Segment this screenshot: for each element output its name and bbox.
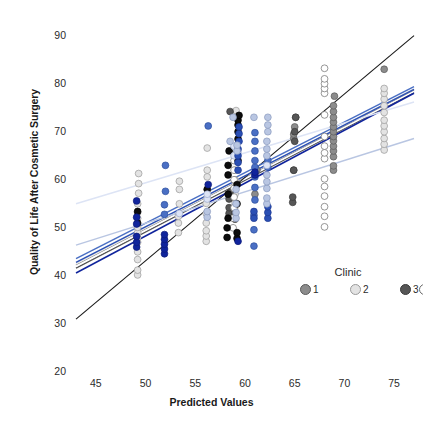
data-point	[227, 189, 234, 196]
data-point	[134, 224, 141, 231]
data-point	[330, 162, 337, 169]
data-point	[251, 208, 258, 215]
data-point	[263, 172, 270, 179]
regression-line-2	[76, 89, 414, 263]
x-tick-label: 75	[379, 377, 409, 389]
data-point	[263, 185, 270, 192]
data-point	[235, 159, 242, 166]
data-point	[263, 162, 270, 169]
legend-item-4[interactable]: 4	[419, 283, 423, 296]
regression-line-10	[76, 138, 414, 245]
data-point	[330, 133, 337, 140]
data-point	[134, 215, 141, 222]
data-point	[381, 109, 388, 116]
y-tick-label: 30	[32, 317, 66, 329]
data-point	[204, 191, 211, 198]
data-point	[232, 157, 239, 164]
data-point	[232, 199, 239, 206]
data-point	[133, 233, 140, 240]
data-point	[234, 142, 241, 149]
data-point	[290, 135, 297, 142]
data-point	[234, 181, 241, 188]
y-tick-label: 20	[32, 365, 66, 377]
data-point	[321, 149, 328, 156]
data-point	[134, 220, 141, 227]
data-point	[264, 122, 271, 129]
legend-swatch-4	[419, 284, 423, 295]
data-point	[203, 227, 210, 234]
data-point	[134, 267, 141, 274]
data-point	[161, 201, 168, 208]
data-point	[263, 152, 270, 159]
data-point	[204, 208, 211, 215]
data-point	[264, 209, 271, 216]
data-point	[161, 211, 168, 218]
data-point	[133, 239, 140, 246]
data-point	[330, 124, 337, 131]
data-point	[264, 215, 271, 222]
legend-title: Clinic	[296, 266, 400, 278]
data-point	[251, 243, 258, 250]
data-point	[175, 220, 182, 227]
data-point	[321, 175, 328, 182]
data-point	[230, 224, 237, 231]
legend-items: 12345678910	[300, 283, 400, 296]
data-point	[231, 167, 238, 174]
data-point	[321, 65, 328, 72]
data-point	[235, 122, 242, 129]
data-point	[231, 176, 238, 183]
data-point	[203, 220, 210, 227]
data-point	[321, 75, 328, 82]
data-point	[235, 136, 242, 143]
data-point	[162, 162, 169, 169]
data-point	[134, 200, 141, 207]
data-point	[204, 196, 211, 203]
data-point	[133, 221, 140, 228]
data-point	[134, 272, 141, 279]
regression-line-1	[76, 90, 414, 265]
data-point	[330, 137, 337, 144]
data-point	[203, 210, 210, 217]
legend-item-3[interactable]: 3	[400, 283, 419, 296]
data-point	[134, 239, 141, 246]
data-point	[321, 80, 328, 87]
data-point	[232, 167, 239, 174]
data-point	[135, 180, 142, 187]
data-point	[231, 145, 238, 152]
data-point	[227, 108, 234, 115]
data-point	[232, 191, 239, 198]
data-point	[203, 238, 210, 245]
data-point	[235, 128, 242, 135]
data-point	[226, 148, 233, 155]
data-point	[264, 164, 271, 171]
regression-line-9	[76, 89, 414, 262]
data-point	[232, 210, 239, 217]
legend-item-2[interactable]: 2	[350, 283, 400, 296]
data-point	[234, 148, 241, 155]
data-point	[290, 167, 297, 174]
data-point	[252, 148, 259, 155]
data-point	[381, 147, 388, 154]
data-point	[263, 200, 270, 207]
data-point	[263, 178, 270, 185]
data-point	[252, 129, 259, 136]
data-point	[251, 114, 258, 121]
data-point	[203, 233, 210, 240]
data-point	[161, 246, 168, 253]
regression-line-6	[76, 87, 414, 259]
data-point	[230, 215, 237, 222]
data-point	[321, 155, 328, 162]
data-point	[232, 215, 239, 222]
legend-item-1[interactable]: 1	[300, 283, 350, 296]
data-point	[252, 197, 259, 204]
data-point	[290, 131, 297, 138]
data-point	[134, 209, 141, 216]
data-point	[321, 143, 328, 150]
data-point	[203, 200, 210, 207]
x-tick-label: 60	[230, 377, 260, 389]
data-point	[227, 138, 234, 145]
data-point	[251, 215, 258, 222]
data-point	[381, 102, 388, 109]
data-point	[204, 186, 211, 193]
data-point	[176, 200, 183, 207]
